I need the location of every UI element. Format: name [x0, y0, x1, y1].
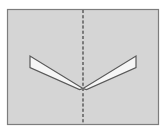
diagram-svg: Symmetric chevron figure with vertical d… — [0, 0, 166, 132]
figure-root: Symmetric chevron figure with vertical d… — [0, 0, 166, 132]
